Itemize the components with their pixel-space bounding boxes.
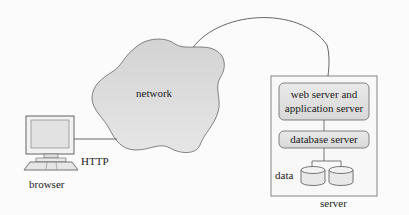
browser-label: browser <box>29 178 64 190</box>
database-disk-icon <box>329 167 353 186</box>
http-label: HTTP <box>81 155 109 167</box>
web-app-server-label-line1: web server and <box>279 87 369 101</box>
web-app-server-label-line2: application server <box>279 101 369 115</box>
computer-icon <box>24 116 78 170</box>
web-app-server-label: web server and application server <box>279 87 369 115</box>
database-disk-icon <box>301 167 325 186</box>
network-label: network <box>136 87 172 99</box>
database-server-label: database server <box>279 132 369 146</box>
data-label: data <box>275 169 293 181</box>
server-label: server <box>320 197 347 209</box>
